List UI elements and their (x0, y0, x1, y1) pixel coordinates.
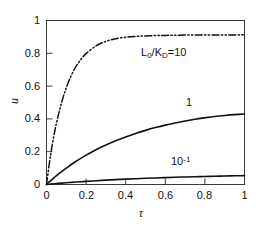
x-tick-label-0.6: 0.6 (149, 190, 182, 201)
annotation-ten-to-minus-one: 10-1 (171, 156, 190, 167)
figure-container: 0 0.2 0.4 0.6 0.8 1 0 0.2 0.4 0.6 0.8 1 … (0, 0, 262, 229)
y-tick-label-0: 0 (8, 179, 40, 190)
curve-1 (47, 114, 245, 185)
x-axis-title: τ (131, 207, 151, 219)
annotation-ten-exponent: -1 (183, 155, 190, 164)
x-tick-label-0: 0 (30, 190, 63, 201)
annotation-l0-kd-10-text: L0/KD=10 (141, 46, 186, 58)
y-axis-title: u (8, 91, 20, 111)
x-tick-label-0.4: 0.4 (109, 190, 142, 201)
x-tick-label-0.8: 0.8 (188, 190, 221, 201)
x-tick-label-1: 1 (228, 190, 261, 201)
annotation-l0-kd-10: L0/KD=10 (141, 47, 186, 60)
curve-10-1 (47, 176, 245, 185)
y-tick-label-0.2: 0.2 (8, 146, 40, 157)
x-tick-label-0.2: 0.2 (70, 190, 103, 201)
annotation-ten-base: 10 (171, 155, 183, 167)
annotation-one: 1 (186, 97, 192, 108)
y-tick-label-1: 1 (8, 15, 40, 26)
y-axis-ticks (47, 21, 53, 185)
y-tick-label-0.8: 0.8 (8, 48, 40, 59)
y-tick-label-0.4: 0.4 (8, 113, 40, 124)
